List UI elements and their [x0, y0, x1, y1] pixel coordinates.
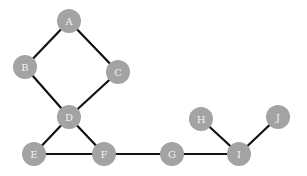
- node-label: A: [64, 16, 73, 27]
- node-label: D: [65, 112, 73, 123]
- node-label: G: [168, 149, 176, 160]
- node-label: H: [197, 114, 206, 125]
- nodes-layer: ABCDEFGHIJ: [13, 9, 290, 166]
- node-d: D: [57, 105, 81, 129]
- node-label: J: [275, 112, 280, 123]
- edges-layer: [25, 21, 278, 154]
- graph-diagram: ABCDEFGHIJ: [0, 0, 307, 176]
- node-b: B: [13, 55, 37, 79]
- node-h: H: [189, 107, 213, 131]
- node-e: E: [22, 142, 46, 166]
- node-label: F: [101, 149, 108, 160]
- node-j: J: [266, 105, 290, 129]
- node-c: C: [106, 60, 130, 84]
- node-g: G: [160, 142, 184, 166]
- node-label: I: [237, 149, 241, 160]
- node-i: I: [227, 142, 251, 166]
- node-label: E: [30, 149, 37, 160]
- node-f: F: [92, 142, 116, 166]
- node-label: B: [21, 62, 28, 73]
- node-label: C: [114, 67, 122, 78]
- node-a: A: [57, 9, 81, 33]
